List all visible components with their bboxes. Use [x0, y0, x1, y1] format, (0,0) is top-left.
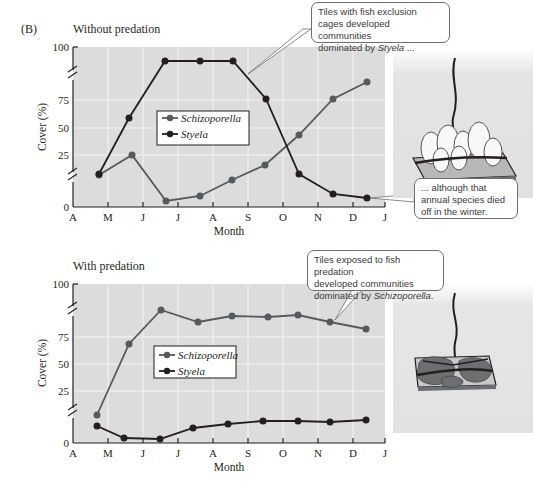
callout-text: dominated by: [318, 42, 378, 53]
svg-text:J: J: [383, 211, 388, 223]
svg-text:J: J: [383, 447, 388, 459]
svg-text:A: A: [69, 447, 77, 459]
svg-text:S: S: [245, 211, 251, 223]
svg-text:100: 100: [53, 41, 70, 53]
bottom-x-tick-labels: AMJ JAS OND J: [69, 447, 388, 459]
callout-line: Tiles exposed to fish predation: [314, 254, 437, 278]
top-legend-schizoporella: Schizoporella: [181, 112, 242, 124]
species-name: Schizoporella: [374, 290, 431, 301]
top-callout-styela-dominance: Tiles with fish exclusion cages develope…: [311, 2, 450, 43]
callout-line: cages developed communities: [318, 18, 443, 42]
svg-text:75: 75: [58, 331, 70, 343]
svg-text:D: D: [349, 211, 357, 223]
top-x-axis-label: Month: [214, 225, 245, 237]
top-y-axis-label: Cover (%): [36, 103, 49, 151]
bottom-callout-schizoporella-dominance: Tiles exposed to fish predation develope…: [307, 250, 444, 291]
svg-text:J: J: [176, 447, 181, 459]
callout-text: .: [431, 290, 434, 301]
bottom-legend-schizoporella: Schizoporella: [178, 349, 239, 361]
bottom-y-tick-labels: 100 75 50 25 0: [53, 278, 70, 449]
top-legend-styela: Styela: [181, 128, 208, 140]
svg-text:J: J: [176, 211, 181, 223]
svg-text:25: 25: [58, 385, 70, 397]
bottom-legend-styela: Styela: [178, 365, 205, 377]
svg-text:O: O: [279, 211, 287, 223]
tile-with-styela-icon: [393, 48, 533, 198]
svg-text:D: D: [349, 447, 357, 459]
top-x-tick-labels: AMJ JAS OND J: [69, 211, 388, 223]
callout-line: dominated by Schizoporella.: [314, 290, 437, 302]
svg-text:N: N: [314, 447, 322, 459]
svg-text:M: M: [103, 447, 113, 459]
bottom-plot: 100 75 50 25 0 AMJ JAS OND J: [36, 278, 388, 473]
top-y-tick-labels: 100 75 50 25 0: [53, 41, 70, 213]
svg-text:75: 75: [58, 94, 70, 106]
bottom-x-axis-label: Month: [214, 461, 245, 473]
svg-text:J: J: [141, 447, 146, 459]
top-tile-illustration-bg: [393, 48, 533, 198]
top-legend: Schizoporella Styela: [157, 111, 249, 145]
svg-text:J: J: [141, 211, 146, 223]
callout-text: ...: [404, 42, 415, 53]
svg-text:M: M: [103, 211, 113, 223]
bottom-tile-illustration-bg: [393, 283, 533, 433]
callout-line: annual species died: [421, 194, 511, 206]
bottom-chart-title: With predation: [73, 259, 145, 274]
callout-line: Tiles with fish exclusion: [318, 6, 443, 18]
svg-text:A: A: [209, 447, 217, 459]
bottom-y-axis-label: Cover (%): [36, 339, 49, 387]
svg-text:100: 100: [53, 278, 70, 290]
svg-text:A: A: [209, 211, 217, 223]
callout-line: developed communities: [314, 278, 437, 290]
callout-line: ... although that: [421, 182, 511, 194]
top-callout-winter-dieoff: ... although that annual species died of…: [414, 178, 518, 219]
callout-line: dominated by Styela ...: [318, 42, 443, 54]
svg-text:50: 50: [58, 122, 70, 134]
svg-text:25: 25: [58, 149, 70, 161]
svg-text:A: A: [69, 211, 77, 223]
svg-text:S: S: [245, 447, 251, 459]
tile-with-schizoporella-icon: [393, 283, 533, 433]
species-name: Styela: [378, 42, 404, 53]
svg-text:N: N: [314, 211, 322, 223]
svg-text:50: 50: [58, 358, 70, 370]
bottom-legend: Schizoporella Styela: [154, 346, 239, 378]
callout-text: dominated by: [314, 290, 374, 301]
top-plot: 100 75 50 25 0 AMJ JAS OND J: [36, 29, 414, 237]
callout-line: off in the winter.: [421, 206, 511, 218]
svg-text:O: O: [279, 447, 287, 459]
